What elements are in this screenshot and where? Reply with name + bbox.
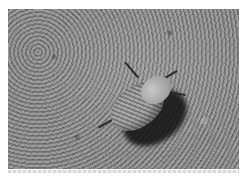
beetle-photo <box>8 9 239 169</box>
ground-texture <box>8 9 239 169</box>
caption-strip <box>8 170 239 173</box>
